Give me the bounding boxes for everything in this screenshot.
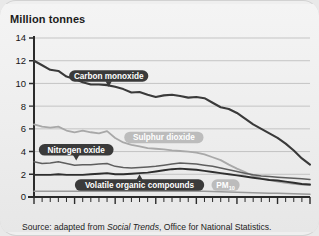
source-suffix: , Office for National Statistics. <box>159 222 272 232</box>
y-axis-tick-label: 0 <box>21 191 26 202</box>
y-axis-title: Million tonnes <box>10 13 85 25</box>
y-axis-tick-label: 4 <box>21 146 26 157</box>
series-line-nitrogen-oxide <box>34 162 310 180</box>
annotation-label: Nitrogen oxide <box>48 146 106 155</box>
y-axis-tick-label: 12 <box>15 55 26 66</box>
x-axis-tick-label: 1970 <box>24 208 44 210</box>
annotation-pointer-down <box>73 155 79 161</box>
annotation-carbon-monoxide: Carbon monoxide <box>69 70 148 87</box>
x-axis-tick-label: 95 <box>232 208 242 210</box>
annotation-volatile-organic-compounds: Volatile organic compounds <box>75 174 204 191</box>
y-axis-tick-label: 10 <box>15 78 26 89</box>
figure-paper: Million tonnes 0246810121419707580859095… <box>0 4 319 232</box>
annotation-label: PM <box>216 181 228 190</box>
x-axis-tick-label: 85 <box>151 208 161 210</box>
annotation-pm: PM10 <box>212 179 240 191</box>
y-axis-tick-label: 14 <box>15 32 26 43</box>
source-publication: Social Trends <box>107 222 159 232</box>
series-line-pm10 <box>34 191 310 194</box>
annotation-label-subscript: 10 <box>229 185 235 191</box>
figure-card: Million tonnes 0246810121419707580859095… <box>0 0 319 236</box>
x-axis-tick-label: 80 <box>110 208 120 210</box>
y-axis-tick-label: 8 <box>21 101 26 112</box>
y-axis-tick-label: 2 <box>21 169 26 180</box>
x-axis-tick-label: 90 <box>191 208 201 210</box>
source-prefix: Source: adapted from <box>22 222 107 232</box>
x-axis-tick-label: 2000 <box>268 208 288 210</box>
annotation-label: Volatile organic compounds <box>85 181 194 190</box>
line-chart: 0246810121419707580859095200004Carbon mo… <box>0 30 319 210</box>
source-note: Source: adapted from Social Trends, Offi… <box>22 222 272 232</box>
y-axis-tick-label: 6 <box>21 123 26 134</box>
annotation-sulphur-dioxide: Sulphur dioxide <box>124 132 203 144</box>
chart-plot-area: 0246810121419707580859095200004Carbon mo… <box>0 30 319 210</box>
annotation-nitrogen-oxide: Nitrogen oxide <box>39 144 114 161</box>
annotation-pointer-up <box>136 174 142 180</box>
x-axis-tick-label: 75 <box>70 208 80 210</box>
annotation-label: Carbon monoxide <box>74 72 144 81</box>
x-axis-tick-label: 04 <box>305 208 315 210</box>
annotation-label: Sulphur dioxide <box>133 133 195 142</box>
